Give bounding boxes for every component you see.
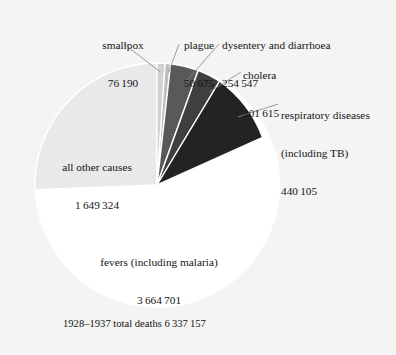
slice-label-smallpox-value: 76 190 (83, 77, 163, 90)
slice-label-fevers: fevers (including malaria) 3 664 701 (64, 231, 254, 332)
slice-label-fevers-name: fevers (including malaria) (64, 256, 254, 269)
slice-label-plague: plague 50 675 (168, 14, 230, 115)
slice-label-plague-name: plague (168, 39, 230, 52)
figure-canvas: smallpox 76 190 plague 50 675 dysentery … (0, 0, 396, 355)
chart-caption: 1928–1937 total deaths 6 337 157 (63, 318, 323, 330)
slice-label-all-other-causes: all other causes 1 649 324 (41, 136, 153, 237)
slice-label-smallpox-name: smallpox (83, 39, 163, 52)
slice-label-cholera-name: cholera (243, 69, 363, 82)
slice-label-all-other-causes-name: all other causes (41, 161, 153, 174)
slice-label-respiratory-value: 440 105 (281, 185, 395, 198)
slice-label-respiratory-name: respiratory diseases (281, 109, 395, 122)
slice-label-plague-value: 50 675 (168, 77, 230, 90)
slice-label-respiratory-name2: (including TB) (281, 147, 395, 160)
slice-label-all-other-causes-value: 1 649 324 (41, 199, 153, 212)
slice-label-fevers-value: 3 664 701 (64, 294, 254, 307)
slice-label-respiratory: respiratory diseases (including TB) 440 … (281, 84, 395, 223)
slice-label-smallpox: smallpox 76 190 (83, 14, 163, 115)
